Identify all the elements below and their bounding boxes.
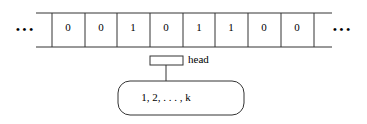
tape-cell-borders (52, 13, 314, 47)
tape-cell: 1 (228, 21, 234, 33)
tape-left-ellipsis: • • • (16, 23, 33, 35)
tape-right-ellipsis: • • • (333, 23, 350, 35)
tape-cell: 0 (65, 21, 71, 33)
head-label: head (188, 53, 209, 65)
tape-cell: 0 (261, 21, 267, 33)
control-states: 1, 2, . . . , k (141, 91, 191, 103)
tape-cell: 1 (196, 21, 202, 33)
turing-machine-diagram: • • • • • • 0 0 1 0 1 1 0 0 head 1, 2, .… (0, 0, 367, 124)
tape-cell: 0 (294, 21, 300, 33)
tape-cell: 0 (98, 21, 104, 33)
tape-head (150, 56, 183, 65)
tape-cell: 0 (163, 21, 169, 33)
tape-cell: 1 (130, 21, 136, 33)
